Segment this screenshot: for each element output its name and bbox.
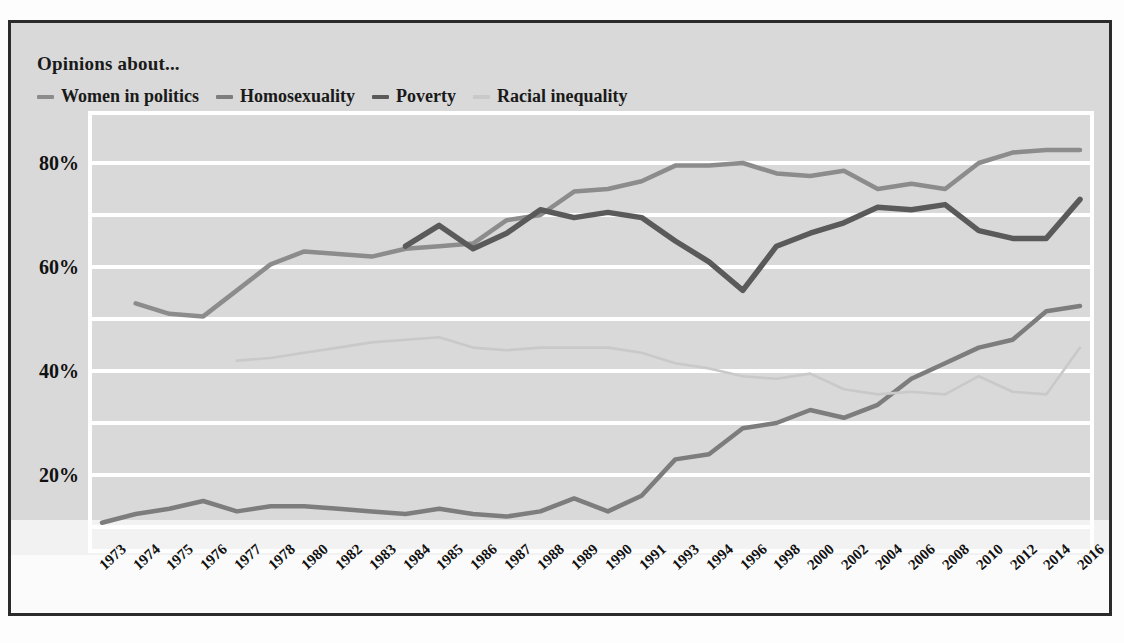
x-axis-tick-label: 1973 bbox=[96, 541, 130, 574]
x-axis-tick-label: 1986 bbox=[467, 541, 501, 574]
page-border-right bbox=[1109, 20, 1112, 616]
x-axis-tick-label: 1977 bbox=[231, 541, 265, 574]
x-axis-tick-label: 1988 bbox=[534, 541, 568, 574]
figure-panel: Opinions about... Women in politicsHomos… bbox=[11, 23, 1109, 613]
x-axis-tick-label: 2008 bbox=[939, 541, 973, 574]
x-axis-labels: 1973197419751976197719781980198219831984… bbox=[11, 23, 1109, 613]
x-axis-tick-label: 2016 bbox=[1074, 541, 1108, 574]
x-axis-tick-label: 2002 bbox=[838, 541, 872, 574]
x-axis-tick-label: 1975 bbox=[163, 541, 197, 574]
x-axis-tick-label: 2000 bbox=[804, 541, 838, 574]
chart-page: Opinions about... Women in politicsHomos… bbox=[0, 0, 1124, 643]
x-axis-tick-label: 1974 bbox=[130, 541, 164, 574]
x-axis-tick-label: 1998 bbox=[770, 541, 804, 574]
x-axis-tick-label: 1996 bbox=[737, 541, 771, 574]
x-axis-tick-label: 1994 bbox=[703, 541, 737, 574]
x-axis-tick-label: 1978 bbox=[265, 541, 299, 574]
x-axis-tick-label: 2006 bbox=[905, 541, 939, 574]
x-axis-tick-label: 1987 bbox=[501, 541, 535, 574]
x-axis-tick-label: 1982 bbox=[332, 541, 366, 574]
x-axis-tick-label: 1980 bbox=[298, 541, 332, 574]
x-axis-tick-label: 1991 bbox=[636, 541, 670, 574]
x-axis-tick-label: 1976 bbox=[197, 541, 231, 574]
x-axis-tick-label: 1985 bbox=[433, 541, 467, 574]
x-axis-tick-label: 2010 bbox=[973, 541, 1007, 574]
x-axis-tick-label: 1983 bbox=[366, 541, 400, 574]
page-border-bottom bbox=[8, 613, 1112, 616]
x-axis-tick-label: 2014 bbox=[1040, 541, 1074, 574]
x-axis-tick-label: 1990 bbox=[602, 541, 636, 574]
x-axis-tick-label: 2012 bbox=[1007, 541, 1041, 574]
x-axis-tick-label: 1989 bbox=[568, 541, 602, 574]
x-axis-tick-label: 1984 bbox=[400, 541, 434, 574]
x-axis-tick-label: 1993 bbox=[669, 541, 703, 574]
x-axis-tick-label: 2004 bbox=[872, 541, 906, 574]
